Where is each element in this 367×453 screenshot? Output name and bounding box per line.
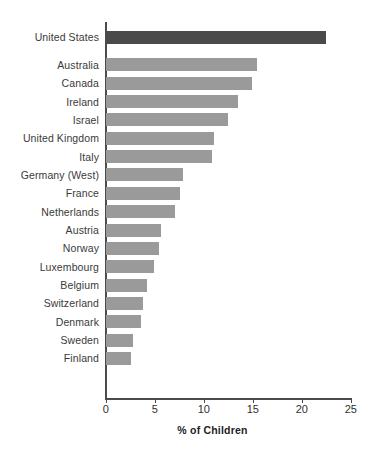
bar-row: Belgium (106, 279, 351, 292)
x-axis-tick-label: 0 (103, 404, 109, 415)
bar (106, 113, 228, 126)
bar-category-label: Israel (73, 115, 99, 126)
bar (106, 242, 159, 255)
x-axis-tick-label: 25 (345, 404, 357, 415)
bar-category-label: Ireland (66, 96, 99, 107)
bar-row: Australia (106, 58, 351, 71)
bar (106, 279, 147, 292)
bar (106, 95, 238, 108)
bar-category-label: Belgium (60, 280, 99, 291)
bar (106, 334, 133, 347)
bar-category-label: France (66, 188, 99, 199)
x-axis-tick-label: 15 (247, 404, 259, 415)
bar-row: Ireland (106, 95, 351, 108)
bar (106, 352, 131, 365)
bar (106, 58, 257, 71)
bar-category-label: Germany (West) (21, 170, 99, 181)
bar-row: Switzerland (106, 297, 351, 310)
bar-category-label: Finland (64, 353, 99, 364)
bar-row: Italy (106, 150, 351, 163)
bar-row: United States (106, 31, 351, 44)
x-axis-title: % of Children (0, 424, 367, 436)
bar (106, 31, 326, 44)
bar (106, 150, 212, 163)
bar-category-label: United Kingdom (23, 133, 99, 144)
bar-category-label: Canada (62, 78, 99, 89)
bar (106, 315, 141, 328)
bar (106, 77, 252, 90)
bar-row: Canada (106, 77, 351, 90)
bar-row: Germany (West) (106, 168, 351, 181)
bar-category-label: Austria (66, 225, 99, 236)
bar-category-label: Norway (63, 243, 99, 254)
bar-category-label: Sweden (60, 335, 99, 346)
bar-category-label: Luxembourg (40, 261, 99, 272)
bar (106, 187, 180, 200)
bar-chart: United StatesAustraliaCanadaIrelandIsrae… (0, 0, 367, 453)
plot-area: United StatesAustraliaCanadaIrelandIsrae… (106, 22, 351, 398)
bar-row: Norway (106, 242, 351, 255)
bar-category-label: United States (35, 32, 99, 43)
x-axis-tick-label: 5 (152, 404, 158, 415)
bar-row: Netherlands (106, 205, 351, 218)
bar (106, 205, 175, 218)
bar (106, 168, 183, 181)
bar-category-label: Italy (79, 151, 99, 162)
bar (106, 132, 214, 145)
bar-category-label: Switzerland (44, 298, 99, 309)
bar-row: Finland (106, 352, 351, 365)
bar-row: Israel (106, 113, 351, 126)
bar-row: Denmark (106, 315, 351, 328)
x-axis-tick-label: 10 (198, 404, 210, 415)
bar (106, 224, 161, 237)
x-axis-line (105, 398, 351, 400)
x-axis-title-text: % of Children (119, 424, 247, 436)
bar (106, 297, 143, 310)
bar-row: Sweden (106, 334, 351, 347)
bar-category-label: Netherlands (41, 206, 99, 217)
bar-row: Luxembourg (106, 260, 351, 273)
bar-row: Austria (106, 224, 351, 237)
bar-category-label: Denmark (56, 317, 99, 328)
bar (106, 260, 154, 273)
x-axis-tick-label: 20 (296, 404, 308, 415)
bar-category-label: Australia (57, 60, 99, 71)
bar-row: France (106, 187, 351, 200)
bar-row: United Kingdom (106, 132, 351, 145)
